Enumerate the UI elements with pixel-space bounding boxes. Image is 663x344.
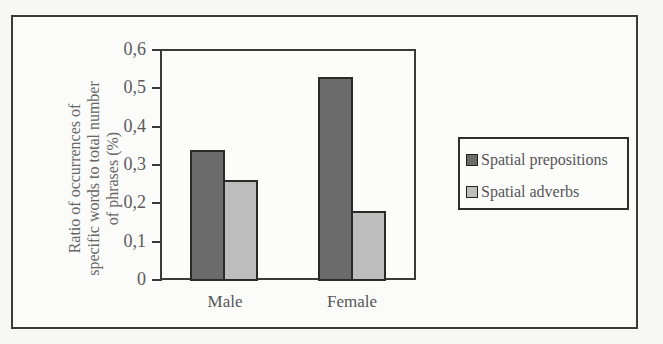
legend: Spatial prepositions Spatial adverbs <box>458 137 629 210</box>
y-tick-label: 0,5 <box>106 78 146 96</box>
y-tick-label: 0,3 <box>106 155 146 173</box>
legend-label-adverbs: Spatial adverbs <box>481 183 579 201</box>
y-tick-label: 0,1 <box>106 232 146 250</box>
legend-swatch-prepositions <box>466 154 478 166</box>
legend-label-prepositions: Spatial prepositions <box>481 151 608 169</box>
y-tick-label: 0,4 <box>106 117 146 135</box>
legend-swatch-adverbs <box>466 186 478 198</box>
legend-item-spatial-prepositions: Spatial prepositions <box>466 151 608 169</box>
y-tick-label: 0,2 <box>106 193 146 211</box>
bar-female-prepositions <box>318 77 353 281</box>
y-axis-title-line-2: specific words to total number <box>84 34 103 324</box>
y-tick-label: 0,6 <box>106 40 146 58</box>
bar-female-adverbs <box>351 211 386 281</box>
x-tick-label-male: Male <box>175 292 275 312</box>
y-axis-title-line-1: Ratio of occurrences of <box>65 34 84 324</box>
y-tick-label: 0 <box>106 270 146 288</box>
x-tick-label-female: Female <box>302 292 402 312</box>
legend-item-spatial-adverbs: Spatial adverbs <box>466 183 579 201</box>
bar-male-prepositions <box>190 150 225 281</box>
bar-male-adverbs <box>223 180 258 281</box>
